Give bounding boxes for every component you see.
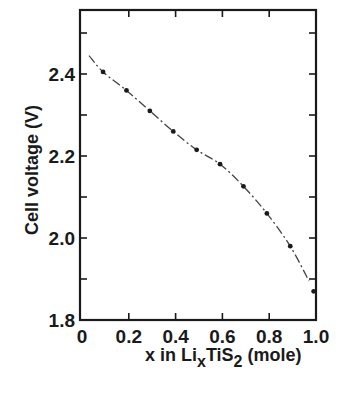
data-points xyxy=(101,70,316,294)
x-tick-label: 0 xyxy=(77,326,88,347)
data-point xyxy=(241,184,246,189)
y-axis-ticks: 1.82.02.22.4 xyxy=(49,33,316,331)
data-point xyxy=(101,70,106,75)
voltage-chart: 1.82.02.22.4 00.20.40.60.81.0 Cell volta… xyxy=(0,0,345,396)
data-point xyxy=(171,129,176,134)
y-axis-title: Cell voltage (V) xyxy=(22,105,42,235)
data-point xyxy=(147,109,152,114)
plot-frame xyxy=(80,10,316,320)
data-point xyxy=(194,147,199,152)
x-tick-label: 0.8 xyxy=(256,326,282,347)
data-point xyxy=(311,289,316,294)
data-curve xyxy=(89,56,309,281)
x-tick-label: 1.0 xyxy=(303,326,329,347)
x-axis-title: x in LixTiS2 (mole) xyxy=(145,345,302,370)
y-tick-label: 1.8 xyxy=(49,310,75,331)
x-tick-label: 0.6 xyxy=(209,326,235,347)
data-point xyxy=(264,211,269,216)
data-point xyxy=(218,162,223,167)
data-point xyxy=(288,244,293,249)
x-tick-label: 0.2 xyxy=(116,326,142,347)
x-axis-ticks: 00.20.40.60.81.0 xyxy=(77,10,330,347)
y-tick-label: 2.4 xyxy=(49,64,76,85)
x-tick-label: 0.4 xyxy=(162,326,189,347)
y-tick-label: 2.0 xyxy=(49,228,75,249)
data-point xyxy=(124,88,129,93)
y-tick-label: 2.2 xyxy=(49,146,75,167)
